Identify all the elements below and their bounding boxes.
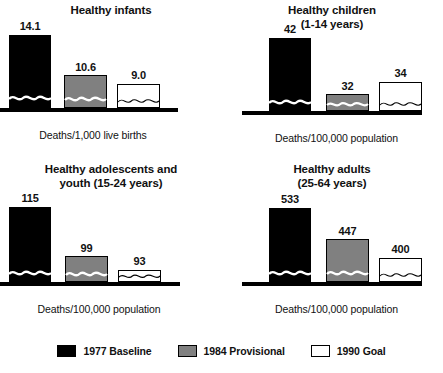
baseline-axis: [0, 108, 178, 112]
bar-1977-baseline: 115: [9, 207, 51, 282]
bar-value-label: 99: [66, 242, 107, 254]
plot-area: 533 447 400: [242, 203, 422, 295]
legend-swatch-gray: [178, 345, 197, 357]
bar-1984-provisional: 99: [65, 256, 108, 282]
panel-healthy-children: Healthy children (1-14 years) 42 32 34: [222, 0, 443, 155]
bar-value-label: 10.6: [65, 61, 106, 73]
axis-break-squiggle: [269, 268, 311, 278]
axis-break-squiggle: [118, 95, 159, 106]
bar-value-label: 93: [119, 255, 160, 267]
panel-caption: Deaths/1,000 live births: [0, 129, 204, 141]
plot-area: 14.1 10.6 9.0: [0, 30, 178, 122]
baseline-axis: [0, 282, 180, 286]
bar-1984-provisional: 10.6: [64, 75, 107, 108]
bar-1990-goal: 400: [379, 258, 422, 282]
plot-area: 42 32 34: [242, 33, 422, 125]
axis-break-squiggle: [380, 269, 421, 280]
axis-break-squiggle: [380, 98, 421, 109]
bar-value-label: 533: [269, 193, 311, 205]
baseline-axis: [242, 282, 422, 286]
panel-healthy-infants: Healthy infants 14.1 10.6 9.0: [0, 0, 222, 155]
bar-1990-goal: 93: [118, 270, 161, 282]
bar-1984-provisional: 32: [326, 94, 369, 111]
quad-bar-chart-figure: Healthy infants 14.1 10.6 9.0: [0, 0, 443, 373]
panel-healthy-adolescents: Healthy adolescents and youth (15-24 yea…: [0, 155, 222, 338]
bar-value-label: 32: [327, 80, 368, 92]
bar-value-label: 9.0: [118, 69, 159, 81]
panel-title: Healthy infants: [0, 4, 222, 18]
bar-value-label: 447: [327, 225, 368, 237]
bar-value-label: 14.1: [9, 20, 51, 32]
legend-label: 1984 Provisional: [204, 345, 285, 357]
bar-value-label: 115: [9, 192, 51, 204]
legend-label: 1990 Goal: [337, 345, 386, 357]
legend-swatch-black: [57, 345, 76, 357]
panel-caption: Deaths/100,000 population: [226, 303, 443, 315]
bar-value-label: 42: [269, 23, 311, 35]
panel-healthy-adults: Healthy adults (25-64 years) 533 447 400: [222, 155, 443, 338]
axis-break-squiggle: [327, 268, 368, 278]
legend-item-1984-provisional: 1984 Provisional: [178, 345, 285, 357]
legend-item-1977-baseline: 1977 Baseline: [57, 345, 151, 357]
bar-1990-goal: 9.0: [117, 84, 160, 108]
panel-title: Healthy children (1-14 years): [237, 4, 427, 31]
axis-break-squiggle: [66, 269, 107, 279]
legend-item-1990-goal: 1990 Goal: [311, 345, 386, 357]
legend-swatch-white: [311, 345, 330, 357]
axis-break-squiggle: [327, 99, 368, 109]
plot-area: 115 99 93: [0, 203, 180, 295]
panel-grid: Healthy infants 14.1 10.6 9.0: [0, 0, 443, 338]
panel-caption: Deaths/100,000 population: [226, 132, 443, 144]
chart-legend: 1977 Baseline 1984 Provisional 1990 Goal: [0, 345, 443, 357]
bar-1990-goal: 34: [379, 82, 422, 111]
legend-label: 1977 Baseline: [83, 345, 151, 357]
bar-1977-baseline: 533: [269, 208, 311, 282]
axis-break-squiggle: [65, 94, 106, 104]
baseline-axis: [242, 111, 422, 115]
bar-value-label: 34: [380, 67, 421, 79]
bar-1977-baseline: 42: [269, 38, 311, 111]
axis-break-squiggle: [269, 97, 311, 107]
panel-title: Healthy adolescents and youth (15-24 yea…: [0, 163, 222, 190]
panel-caption: Deaths/100,000 population: [0, 303, 210, 315]
axis-break-squiggle: [9, 268, 51, 278]
bar-1984-provisional: 447: [326, 239, 369, 282]
axis-break-squiggle: [9, 93, 51, 103]
bar-1977-baseline: 14.1: [9, 35, 51, 108]
bar-value-label: 400: [380, 243, 421, 255]
panel-title: Healthy adults (25-64 years): [237, 163, 427, 190]
axis-break-squiggle: [119, 271, 160, 281]
